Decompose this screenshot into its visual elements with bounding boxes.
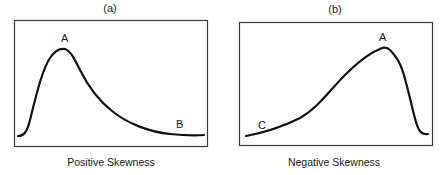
skewness-charts: A B A C xyxy=(0,0,447,175)
panel-b-peak-label: A xyxy=(379,31,387,43)
panel-b-caption: Negative Skewness xyxy=(234,156,434,168)
panel-b-curve xyxy=(246,48,428,136)
panel-a-caption: Positive Skewness xyxy=(11,156,211,168)
panel-a-peak-label: A xyxy=(61,32,69,44)
panel-b-tail-label: C xyxy=(258,119,266,131)
panel-a-tail-label: B xyxy=(176,118,183,130)
